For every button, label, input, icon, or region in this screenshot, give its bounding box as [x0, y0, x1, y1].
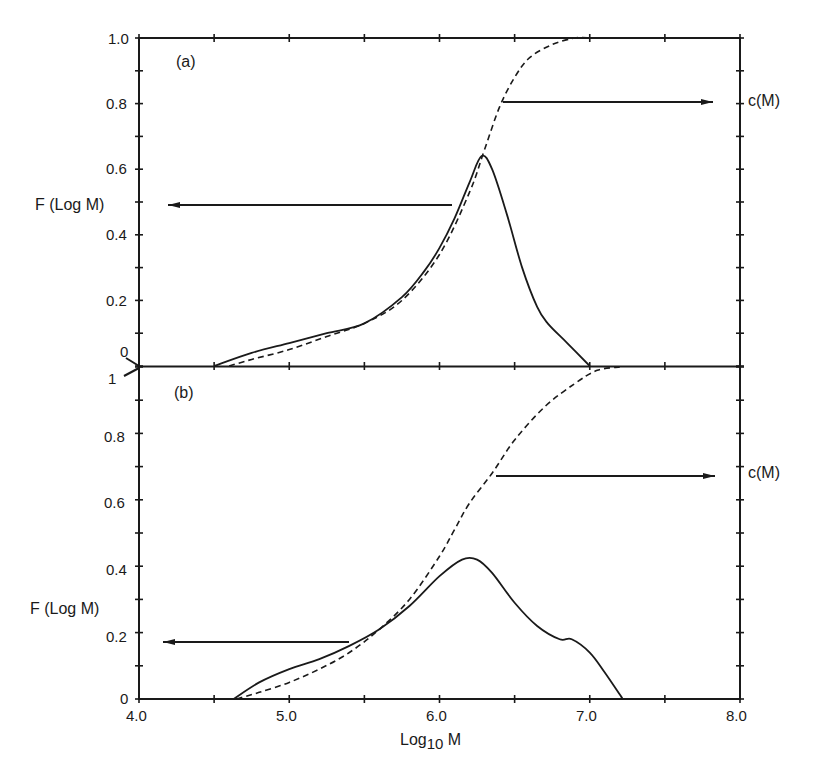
f-axis-label-bottom: F (Log M) [30, 600, 99, 618]
panel-b-label: (b) [174, 384, 194, 402]
c-axis-label-top: c(M) [748, 92, 780, 110]
y-tick-label-bottom: 0 [120, 690, 128, 707]
y-tick-label-top: 0.8 [106, 95, 127, 112]
y-tick-label-bottom: 0.6 [104, 494, 125, 511]
c-axis-label-bottom: c(M) [748, 464, 780, 482]
y-tick-label-bottom: 1 [108, 370, 116, 387]
y-tick-label-top: 0.2 [106, 292, 127, 309]
arrowhead-icon [701, 99, 713, 105]
plot-frame [124, 38, 740, 699]
axis-ticks [135, 34, 744, 703]
arrowhead-icon [168, 202, 180, 208]
y-tick-label-top: 0 [120, 343, 128, 360]
x-tick-label: 6.0 [426, 707, 447, 724]
cumulative-curve-c [229, 38, 590, 366]
x-tick-label: 4.0 [126, 707, 147, 724]
x-axis-title: Log10 M [400, 731, 461, 752]
x-axis-title-end: M [443, 731, 461, 748]
distribution-curve-f [234, 558, 623, 699]
f-axis-label-top: F (Log M) [35, 196, 104, 214]
distribution-curve-f [214, 156, 590, 366]
x-tick-label: 5.0 [276, 707, 297, 724]
y-tick-label-bottom: 0.4 [106, 561, 127, 578]
x-axis-title-sub: 10 [427, 735, 444, 752]
y-tick-label-bottom: 0.2 [106, 628, 127, 645]
y-tick-label-bottom: 0.8 [104, 428, 125, 445]
arrowhead-icon [703, 473, 715, 479]
y-tick-label-top: 1.0 [108, 30, 129, 47]
data-curves [214, 38, 623, 699]
x-tick-label: 8.0 [726, 707, 747, 724]
cumulative-curve-c [237, 367, 620, 699]
annotation-arrows [163, 99, 715, 645]
panel-a-label: (a) [176, 53, 196, 71]
y-tick-label-top: 0.6 [106, 160, 127, 177]
x-tick-label: 7.0 [576, 707, 597, 724]
chart-canvas [0, 0, 817, 775]
one-leader-line [124, 368, 139, 376]
x-axis-title-main: Log [400, 731, 427, 748]
y-tick-label-top: 0.4 [106, 226, 127, 243]
arrowhead-icon [163, 639, 175, 645]
